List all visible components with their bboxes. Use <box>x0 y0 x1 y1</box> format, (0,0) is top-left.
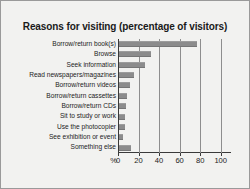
bar <box>119 124 125 130</box>
y-axis-tick-label: Seek information <box>9 60 118 70</box>
bar <box>119 103 126 109</box>
bar-row <box>118 122 231 132</box>
bar <box>119 51 151 57</box>
category-label: Use the photocopier <box>57 124 116 131</box>
bar-row <box>118 132 231 142</box>
x-axis: % 020406080100 <box>118 153 231 171</box>
y-axis-tick-label: Borrow/return CDs <box>9 101 118 111</box>
y-axis-tick-label: Borrow/return videos <box>9 80 118 90</box>
bar <box>119 62 145 68</box>
x-axis-tick-label: 60 <box>175 156 183 165</box>
category-label: Read newspapers/magazines <box>29 72 116 79</box>
bar-row <box>118 39 231 49</box>
bar-row <box>118 112 231 122</box>
bar-row <box>118 60 231 70</box>
x-axis-tick-label: 40 <box>155 156 163 165</box>
bar-row <box>118 143 231 153</box>
y-axis-tick-label: Read newspapers/magazines <box>9 70 118 80</box>
x-axis-tick-label: 20 <box>134 156 142 165</box>
x-axis-tick-label: 100 <box>214 156 227 165</box>
y-axis-tick-label: See exhibition or event <box>9 132 118 142</box>
category-label: Something else <box>71 144 116 151</box>
bar-row <box>118 70 231 80</box>
y-axis-tick-label: Borrow/return cassettes <box>9 91 118 101</box>
category-label: Borrow/return CDs <box>61 103 116 110</box>
bar <box>119 145 131 151</box>
category-label: Borrow/return videos <box>55 82 116 89</box>
y-axis-category-labels: Borrow/return book(s)BrowseSeek informat… <box>9 39 118 153</box>
category-label: See exhibition or event <box>49 134 116 141</box>
bar <box>119 114 125 120</box>
bar <box>119 72 134 78</box>
chart-figure: Reasons for visiting (percentage of visi… <box>0 0 250 189</box>
y-axis-tick-label: Use the photocopier <box>9 122 118 132</box>
category-label: Browse <box>94 51 116 58</box>
plot-area <box>118 39 231 153</box>
x-axis-tick-label: 80 <box>196 156 204 165</box>
category-label: Borrow/return cassettes <box>46 93 116 100</box>
bar <box>119 134 123 140</box>
bar <box>119 82 130 88</box>
chart-plot-wrapper: Borrow/return book(s)BrowseSeek informat… <box>9 39 243 171</box>
y-axis-tick-label: Sit to study or work <box>9 112 118 122</box>
x-axis-tick-label: 0 <box>116 156 120 165</box>
bar-row <box>118 80 231 90</box>
y-axis-tick-label: Borrow/return book(s) <box>9 39 118 49</box>
chart-title: Reasons for visiting (percentage of visi… <box>1 21 249 32</box>
y-axis-tick-label: Browse <box>9 49 118 59</box>
category-label: Seek information <box>67 62 116 69</box>
y-axis-tick-label: Something else <box>9 143 118 153</box>
bar <box>119 41 197 47</box>
category-label: Sit to study or work <box>60 113 116 120</box>
category-label: Borrow/return book(s) <box>52 41 116 48</box>
bar-row <box>118 49 231 59</box>
bar-row <box>118 91 231 101</box>
bar <box>119 93 127 99</box>
bar-row <box>118 101 231 111</box>
